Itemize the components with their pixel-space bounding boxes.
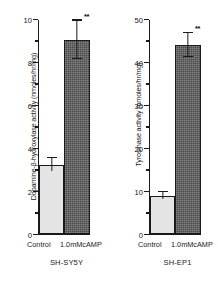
y-tick-minor-right [146, 126, 149, 127]
y-tick-minor-right [146, 169, 149, 170]
x-label-treated-right: 1.0mMcAMP [171, 240, 213, 249]
panel-sh-ep1: Tyrosinase activity (pmoles/hr/mg) ** 01… [109, 0, 218, 281]
plot-area-right: ** 01020304050 [149, 20, 201, 235]
error-cap-top-treated-right [183, 32, 193, 33]
y-tick-major-right [144, 191, 149, 192]
y-tick-label-left: 8 [28, 59, 32, 68]
figure-two-panel-bar-chart: Dopamine-β-hydroxylase activity (nmoles/… [0, 0, 218, 281]
error-bar-treated-left [76, 21, 77, 60]
error-cap-top-treated-left [72, 19, 82, 20]
y-tick-major-left [33, 191, 38, 192]
y-tick-minor-left [35, 126, 38, 127]
y-tick-major-right [144, 148, 149, 149]
panel-sh-sy5y: Dopamine-β-hydroxylase activity (nmoles/… [0, 0, 109, 281]
y-tick-minor-left [35, 169, 38, 170]
cell-line-label-right: SH-EP1 [109, 258, 218, 267]
y-tick-minor-right [146, 40, 149, 41]
bar-control-right [150, 196, 175, 234]
y-tick-label-left: 4 [28, 145, 32, 154]
y-tick-label-left: 6 [28, 102, 32, 111]
y-tick-major-left [33, 234, 38, 235]
error-cap-bottom-treated-left [72, 58, 82, 59]
significance-marker-right: ** [195, 24, 200, 33]
y-tick-major-right [144, 105, 149, 106]
x-label-control-left: Control [27, 240, 51, 249]
error-cap-top-control-left [47, 157, 57, 158]
y-tick-label-right: 50 [135, 16, 143, 25]
significance-marker-left: ** [84, 11, 89, 20]
x-label-control-right: Control [138, 240, 162, 249]
y-tick-major-right [144, 62, 149, 63]
y-tick-major-right [144, 234, 149, 235]
bar-group-left: ** [39, 20, 90, 234]
error-bar-control-right [162, 192, 163, 199]
y-tick-label-right: 0 [139, 231, 143, 240]
y-axis-title-right: Tyrosinase activity (pmoles/hr/mg) [134, 30, 143, 200]
y-tick-label-right: 10 [135, 188, 143, 197]
x-axis-line-left [38, 234, 90, 235]
y-tick-major-left [33, 105, 38, 106]
error-bar-treated-right [187, 33, 188, 57]
y-tick-label-left: 2 [28, 188, 32, 197]
bar-control-left [39, 165, 64, 234]
y-tick-minor-right [146, 212, 149, 213]
y-tick-major-left [33, 19, 38, 20]
x-label-treated-left: 1.0mMcAMP [60, 240, 102, 249]
y-tick-minor-right [146, 83, 149, 84]
y-tick-label-right: 30 [135, 102, 143, 111]
bar-treated-left [64, 40, 90, 234]
error-cap-bottom-treated-right [183, 56, 193, 57]
y-tick-label-right: 20 [135, 145, 143, 154]
error-bar-control-left [51, 158, 52, 171]
y-tick-major-left [33, 148, 38, 149]
cell-line-label-left: SH-SY5Y [0, 258, 121, 267]
y-tick-major-right [144, 19, 149, 20]
y-tick-major-left [33, 62, 38, 63]
error-cap-top-control-right [158, 191, 168, 192]
y-tick-minor-left [35, 83, 38, 84]
y-tick-minor-left [35, 40, 38, 41]
plot-area-left: ** 0246810 [38, 20, 90, 235]
bar-treated-right [175, 45, 201, 233]
y-tick-label-right: 40 [135, 59, 143, 68]
y-tick-minor-left [35, 212, 38, 213]
x-axis-line-right [149, 234, 201, 235]
y-tick-label-left: 10 [24, 16, 32, 25]
bar-group-right: ** [150, 20, 201, 234]
y-tick-label-left: 0 [28, 231, 32, 240]
